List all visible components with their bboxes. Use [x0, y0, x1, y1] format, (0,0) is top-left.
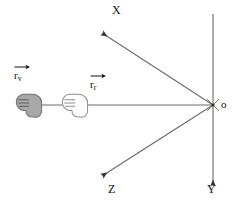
axis-label-y: Y	[207, 183, 216, 195]
vector-sub-r-r: r	[94, 83, 97, 92]
vector-sub-r-v: v	[18, 74, 22, 83]
vector-base-r-v: r	[14, 70, 18, 81]
axis-label-z: Z	[108, 183, 115, 195]
vector-base-r-r: r	[90, 79, 94, 90]
diagram-canvas: X Z Y o rv rr	[0, 0, 235, 205]
vector-label-r-r: rr	[90, 73, 96, 92]
z-axis-line	[102, 105, 213, 176]
origin-label: o	[221, 99, 227, 110]
axis-label-x: X	[112, 4, 121, 16]
hand-outline-icon	[62, 94, 87, 117]
hand-filled-icon	[16, 94, 41, 117]
x-axis-line	[102, 33, 213, 105]
origin-point	[211, 103, 214, 106]
diagram-vector-layer	[0, 0, 235, 205]
vector-label-r-v: rv	[14, 64, 22, 83]
